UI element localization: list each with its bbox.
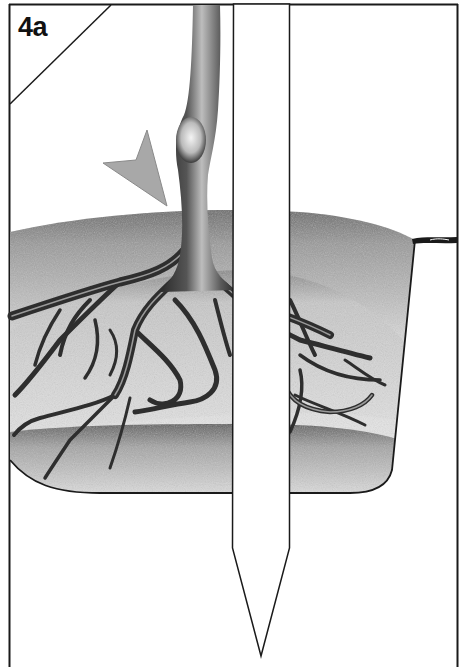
stem-bulge	[176, 117, 206, 163]
stake-tie	[412, 237, 457, 244]
illustration-canvas: 4a	[0, 0, 465, 667]
support-stake	[233, 4, 290, 656]
illustration-svg	[0, 0, 465, 667]
panel-label: 4a	[18, 14, 47, 41]
root-collar-arrow	[103, 130, 167, 206]
